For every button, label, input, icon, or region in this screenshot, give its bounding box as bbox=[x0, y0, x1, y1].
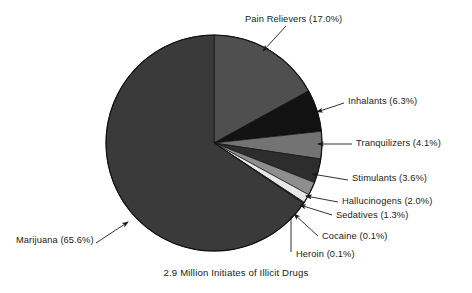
slice-label-sedatives: Sedatives (1.3%) bbox=[336, 210, 408, 221]
slice-label-stimulants: Stimulants (3.6%) bbox=[352, 173, 427, 184]
chart-caption: 2.9 Million Initiates of Illicit Drugs bbox=[0, 267, 472, 278]
slice-label-heroin: Heroin (0.1%) bbox=[296, 249, 355, 260]
slice-label-marijuana: Marijuana (65.6%) bbox=[16, 235, 94, 246]
slice-label-cocaine: Cocaine (0.1%) bbox=[322, 231, 387, 242]
leader-stimulants bbox=[312, 174, 348, 180]
slice-label-tranquilizers: Tranquilizers (4.1%) bbox=[356, 138, 441, 149]
slice-label-pain-relievers: Pain Relievers (17.0%) bbox=[245, 14, 342, 25]
leader-marijuana bbox=[96, 222, 128, 243]
leader-sedatives bbox=[300, 205, 332, 215]
leader-inhalants bbox=[317, 103, 344, 112]
leader-pain-relievers bbox=[263, 26, 286, 51]
leader-cocaine bbox=[294, 214, 318, 236]
slice-label-hallucinogens: Hallucinogens (2.0%) bbox=[342, 196, 432, 207]
leader-hallucinogens bbox=[306, 196, 338, 202]
pie-slices bbox=[106, 35, 322, 251]
slice-label-inhalants: Inhalants (6.3%) bbox=[348, 96, 417, 107]
pie-chart-figure: Pain Relievers (17.0%) Inhalants (6.3%) … bbox=[0, 0, 472, 293]
